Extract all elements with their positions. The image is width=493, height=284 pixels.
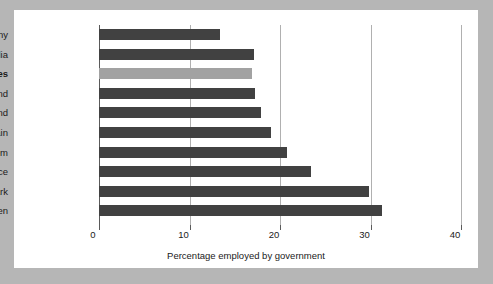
bar-row xyxy=(99,205,461,216)
bar-united-states xyxy=(99,68,252,79)
category-label-germany: Germany xyxy=(0,29,8,40)
tick-mark-30 xyxy=(371,225,372,230)
category-label-france: France xyxy=(0,166,8,177)
category-label-denmark: Denmark xyxy=(0,186,8,197)
plot-area xyxy=(99,25,461,226)
gridline-40 xyxy=(461,25,462,226)
category-label-united-states: United States xyxy=(0,68,8,79)
category-label-united-kingdom: United Kingdom xyxy=(0,147,8,158)
bar-germany xyxy=(99,29,220,40)
category-axis-labels: GermanyAustraliaUnited StatesSwitzerland… xyxy=(0,25,8,226)
bar-row xyxy=(99,68,461,79)
bar-row xyxy=(99,127,461,138)
bar-row xyxy=(99,29,461,40)
category-label-switzerland: Switzerland xyxy=(0,88,8,99)
tick-label-10: 10 xyxy=(178,229,189,240)
tick-mark-40 xyxy=(461,225,462,230)
category-label-spain: Spain xyxy=(0,127,8,138)
bar-row xyxy=(99,166,461,177)
bar-row xyxy=(99,147,461,158)
tick-label-30: 30 xyxy=(359,229,370,240)
tick-label-0: 0 xyxy=(90,229,95,240)
bar-rows xyxy=(99,25,461,226)
chart-panel: GermanyAustraliaUnited StatesSwitzerland… xyxy=(14,10,478,268)
bar-spain xyxy=(99,127,271,138)
value-axis-ticks: 010203040 xyxy=(99,229,461,243)
chart-page: GermanyAustraliaUnited StatesSwitzerland… xyxy=(0,0,493,284)
tick-mark-0 xyxy=(99,225,100,230)
bar-row xyxy=(99,107,461,118)
bar-row xyxy=(99,186,461,197)
tick-label-40: 40 xyxy=(450,229,461,240)
tick-label-20: 20 xyxy=(269,229,280,240)
bar-switzerland xyxy=(99,88,255,99)
bar-row xyxy=(99,49,461,60)
bar-australia xyxy=(99,49,254,60)
category-label-sweden: Sweden xyxy=(0,205,8,216)
category-label-australia: Australia xyxy=(0,49,8,60)
category-label-new-zealand: New Zealand xyxy=(0,107,8,118)
bar-sweden xyxy=(99,205,382,216)
x-axis-title: Percentage employed by government xyxy=(14,250,478,261)
bar-denmark xyxy=(99,186,369,197)
tick-mark-20 xyxy=(280,225,281,230)
bar-new-zealand xyxy=(99,107,261,118)
tick-mark-10 xyxy=(190,225,191,230)
bar-row xyxy=(99,88,461,99)
bar-united-kingdom xyxy=(99,147,287,158)
bar-france xyxy=(99,166,311,177)
